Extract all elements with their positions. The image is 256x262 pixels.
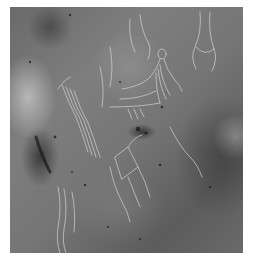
- lower-left-lines: [57, 127, 202, 253]
- upper-center-figure: [110, 15, 182, 119]
- lower-center-figure: [110, 135, 150, 222]
- rock-engraving-photo: Grayscale photograph of a rock surface w…: [10, 7, 243, 253]
- rock-texture: [29, 14, 211, 240]
- upper-right-figure: [193, 12, 216, 71]
- engraving-lines: [10, 7, 243, 253]
- left-center-fringe: [58, 47, 112, 157]
